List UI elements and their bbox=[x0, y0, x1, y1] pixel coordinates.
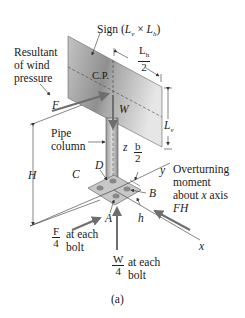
f-bolt-fraction: F 4 bbox=[52, 226, 60, 249]
f-bolt-text: at each bolt bbox=[66, 228, 98, 254]
lh-sub: h bbox=[146, 51, 150, 59]
bolt-d bbox=[110, 179, 117, 184]
figure-caption: (a) bbox=[111, 293, 124, 305]
f-bolt-line-1: at each bbox=[66, 228, 98, 241]
pipe-label: Pipe column bbox=[51, 127, 86, 153]
wind-line-3: pressure bbox=[14, 72, 57, 85]
sign-times: × bbox=[134, 23, 146, 35]
point-d-label: D bbox=[95, 159, 103, 171]
w-bolt-text: at each bolt bbox=[128, 256, 160, 282]
bolt-c bbox=[97, 186, 104, 191]
moment-line-2: moment bbox=[173, 176, 229, 189]
w-bolt-den: 4 bbox=[112, 266, 124, 277]
w-bolt-line-2: bolt bbox=[128, 269, 160, 282]
bolt-a bbox=[113, 194, 120, 199]
force-f-label: F bbox=[52, 99, 59, 111]
point-a-label: A bbox=[105, 212, 112, 224]
bolt-b bbox=[124, 187, 131, 192]
lv-label: Lv bbox=[164, 119, 174, 136]
wind-line-2: of wind bbox=[14, 59, 57, 72]
moment-line-3: about x axis bbox=[173, 189, 229, 202]
moment-label: Overturning moment about x axis FH bbox=[173, 163, 229, 215]
point-c-label: C bbox=[72, 168, 80, 180]
wind-line-1: Resultant bbox=[14, 46, 57, 59]
lh-half-fraction: Lh 2 bbox=[138, 45, 150, 73]
wind-label: Resultant of wind pressure bbox=[14, 46, 57, 85]
moment-value: FH bbox=[173, 202, 229, 215]
pipe-line-1: Pipe bbox=[51, 127, 86, 140]
w-bolt-fraction: W 4 bbox=[112, 254, 124, 277]
b-half-fraction: b 2 bbox=[134, 141, 142, 164]
weight-label: W bbox=[119, 103, 129, 115]
sign-label: Sign (Lv × Lh) bbox=[97, 23, 160, 40]
b-half-den: 2 bbox=[134, 153, 142, 164]
lh-half-den: 2 bbox=[138, 62, 150, 73]
z-axis-label: z bbox=[123, 141, 127, 153]
height-h-label: H bbox=[28, 169, 36, 181]
f-bolt-den: 4 bbox=[52, 238, 60, 249]
y-axis-label: y bbox=[160, 164, 165, 176]
lh-half-num: Lh bbox=[138, 45, 150, 62]
pipe-line-2: column bbox=[51, 140, 86, 153]
moment-line-1: Overturning bbox=[173, 163, 229, 176]
lv-sub: v bbox=[170, 126, 173, 134]
point-b-label: B bbox=[149, 187, 156, 199]
dim-h-label: h bbox=[138, 212, 144, 224]
w-bolt-line-1: at each bbox=[128, 256, 160, 269]
x-axis-label: x bbox=[199, 240, 204, 252]
lh-main: L bbox=[139, 44, 146, 56]
cp-label: C.P. bbox=[92, 70, 109, 82]
height-dimension bbox=[30, 98, 100, 226]
f-bolt-line-2: bolt bbox=[66, 241, 98, 254]
sign-label-prefix: Sign ( bbox=[97, 23, 125, 35]
sign-suffix: ) bbox=[156, 23, 160, 35]
